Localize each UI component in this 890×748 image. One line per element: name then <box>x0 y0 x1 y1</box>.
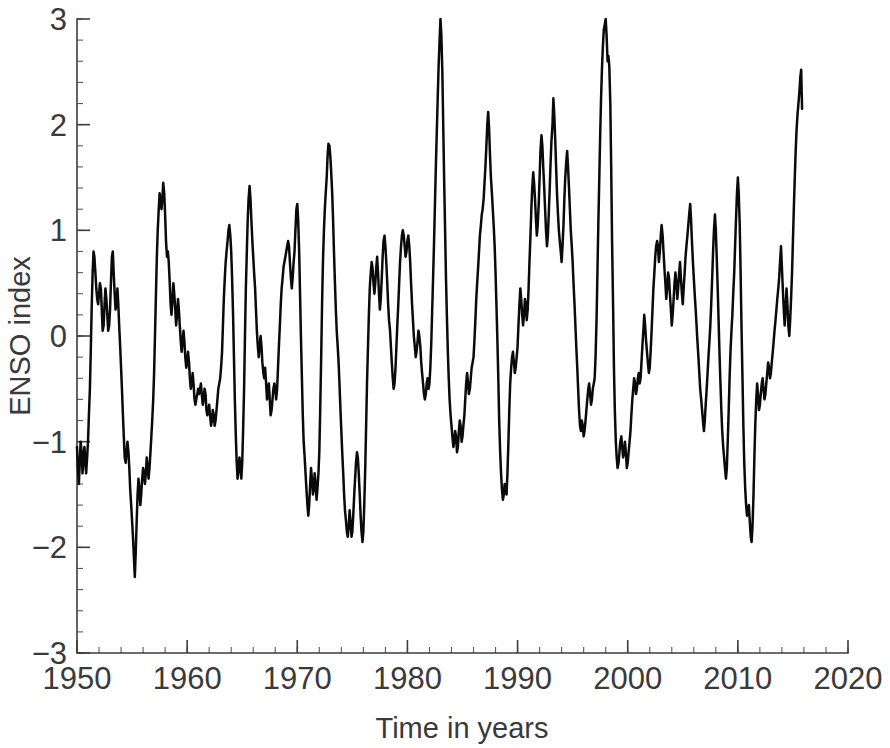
y-tick-label: −2 <box>32 530 67 565</box>
y-tick-label: 0 <box>50 319 67 354</box>
x-tick-label: 1970 <box>263 661 332 696</box>
x-tick-label: 1960 <box>153 661 222 696</box>
y-tick-label: 1 <box>50 213 67 248</box>
y-tick-labels: −3−2−10123 <box>32 2 67 671</box>
y-tick-label: 3 <box>50 2 67 37</box>
enso-index-line <box>77 19 802 577</box>
x-tick-label: 1950 <box>43 661 112 696</box>
chart-canvas: −3−2−10123 19501960197019801990200020102… <box>0 0 890 748</box>
x-axis-label: Time in years <box>376 712 549 744</box>
x-tick-labels: 19501960197019801990200020102020 <box>43 661 883 696</box>
x-tick-label: 2010 <box>703 661 772 696</box>
x-tick-label: 2000 <box>593 661 662 696</box>
y-axis-label: ENSO index <box>4 256 36 416</box>
enso-index-chart-figure: −3−2−10123 19501960197019801990200020102… <box>0 0 890 748</box>
y-tick-label: −1 <box>32 425 67 460</box>
x-tick-label: 1980 <box>373 661 442 696</box>
x-tick-label: 2020 <box>814 661 883 696</box>
y-tick-label: 2 <box>50 108 67 143</box>
x-tick-label: 1990 <box>483 661 552 696</box>
